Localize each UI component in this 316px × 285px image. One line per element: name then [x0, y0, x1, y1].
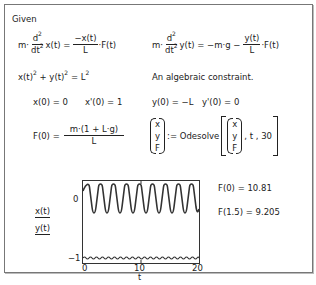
eq1-rhs-tail: ·F(t) [99, 40, 117, 50]
given-label: Given [12, 14, 37, 24]
x-axis-label: t [138, 273, 141, 282]
legend-y: y(t) [35, 223, 50, 235]
constraint-equation[interactable]: x(t)2 + y(t)2 = L2 [18, 72, 89, 82]
eq2-derivative: d2 dt2 [164, 33, 179, 56]
eq1-coef: m· [18, 40, 29, 50]
equation-x-motion[interactable]: m· d2 dt2 x(t) = −x(t) L ·F(t) [18, 33, 116, 56]
result-F1-5[interactable]: F(1.5) = 9.205 [218, 207, 280, 217]
eq2-rhs-fraction: y(t) L [243, 33, 260, 56]
F0-definition[interactable]: F(0) = m·(1 + L·g) L [33, 124, 125, 147]
eq2-rhs-tail: ·F(t) [261, 40, 279, 50]
xy-plot[interactable] [82, 180, 200, 264]
constraint-note[interactable]: An algebraic constraint. [152, 72, 253, 82]
ic-xprime0[interactable]: x'(0) = 1 [85, 97, 122, 107]
F0-fraction: m·(1 + L·g) L [64, 124, 124, 147]
legend-x: x(t) [35, 206, 50, 218]
ic-y0[interactable]: y(0) = −L [152, 97, 193, 107]
eq1-derivative: d2 dt2 [30, 33, 45, 56]
odesolve-statement[interactable]: x y F := Odesolve x y F , t , 30 [150, 118, 278, 154]
eq1-rhs-fraction: −x(t) L [73, 33, 97, 56]
odesolve-assign: := Odesolve [167, 131, 219, 141]
equation-y-motion[interactable]: m· d2 dt2 y(t) = −m·g − y(t) L ·F(t) [152, 33, 279, 56]
x-tick-10: 10 [134, 263, 145, 273]
odesolve-args: x y F , t , 30 [221, 118, 278, 154]
F0-lhs: F(0) = [33, 131, 60, 141]
x-tick-0: 0 [82, 263, 87, 273]
result-F0[interactable]: F(0) = 10.81 [218, 183, 272, 193]
eq2-coef: m· [152, 40, 163, 50]
eq2-lhs-fn: y(t) = −m·g − [180, 40, 241, 50]
x-tick-20: 20 [192, 263, 203, 273]
y-tick-0: 0 [73, 194, 78, 204]
y-tick-neg1: −1 [68, 253, 81, 263]
plot-curves [83, 181, 199, 263]
eq1-lhs-fn: x(t) = [46, 40, 71, 50]
ic-yprime0[interactable]: y'(0) = 0 [202, 97, 239, 107]
solution-vector: x y F [150, 118, 165, 154]
ic-x0[interactable]: x(0) = 0 [33, 97, 68, 107]
